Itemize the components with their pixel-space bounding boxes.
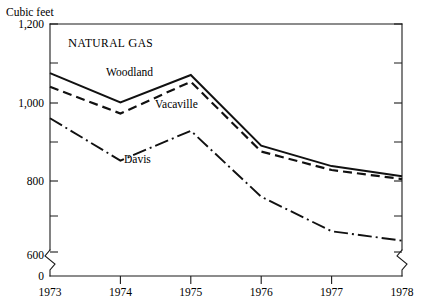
series-line-davis xyxy=(50,118,402,240)
chart-title: NATURAL GAS xyxy=(68,36,153,50)
y-tick-label-1000: 1,000 xyxy=(18,97,44,110)
natural-gas-line-chart: Cubic feet 1,200 1,000 800 600 0 xyxy=(0,0,427,300)
y-tick-label-0: 0 xyxy=(38,270,44,282)
y-axis-break-zigzag-right xyxy=(397,250,407,276)
y-tick-label-600: 600 xyxy=(27,249,45,261)
chart-title-part-4: AS xyxy=(138,37,154,49)
y-tick-label-800: 800 xyxy=(27,175,45,187)
chart-title-part-2: ATURAL xyxy=(78,37,125,49)
y-axis-ticks-right xyxy=(394,24,402,252)
x-tick-label-1976: 1976 xyxy=(250,286,273,298)
x-tick-label-1978: 1978 xyxy=(391,286,414,298)
x-tick-label-1975: 1975 xyxy=(179,286,202,298)
x-tick-label-1974: 1974 xyxy=(109,286,132,298)
chart-canvas: Cubic feet 1,200 1,000 800 600 0 xyxy=(0,0,427,300)
series-line-vacaville xyxy=(50,82,402,179)
series-label-vacaville: Vacaville xyxy=(155,98,198,110)
x-axis-tick-labels: 1973 1974 1975 1976 1977 1978 xyxy=(39,286,414,298)
series-labels: Woodland Vacaville Davis xyxy=(106,66,198,165)
chart-title-part-1: N xyxy=(68,36,78,50)
y-axis-tick-labels: 1,200 1,000 800 600 0 xyxy=(18,18,44,282)
x-tick-label-1977: 1977 xyxy=(320,286,343,298)
series-group xyxy=(50,73,402,241)
y-axis-ticks-left xyxy=(50,24,58,252)
y-axis-break-zigzag-left xyxy=(45,250,55,276)
series-label-davis: Davis xyxy=(124,153,151,165)
chart-title-part-3: G xyxy=(128,36,138,50)
series-label-woodland: Woodland xyxy=(106,66,153,78)
x-tick-label-1973: 1973 xyxy=(39,286,62,298)
y-axis-title: Cubic feet xyxy=(6,6,54,18)
y-tick-label-1200: 1,200 xyxy=(18,18,44,31)
series-line-woodland xyxy=(50,73,402,176)
plot-frame xyxy=(45,24,407,276)
x-axis-ticks xyxy=(120,276,331,284)
